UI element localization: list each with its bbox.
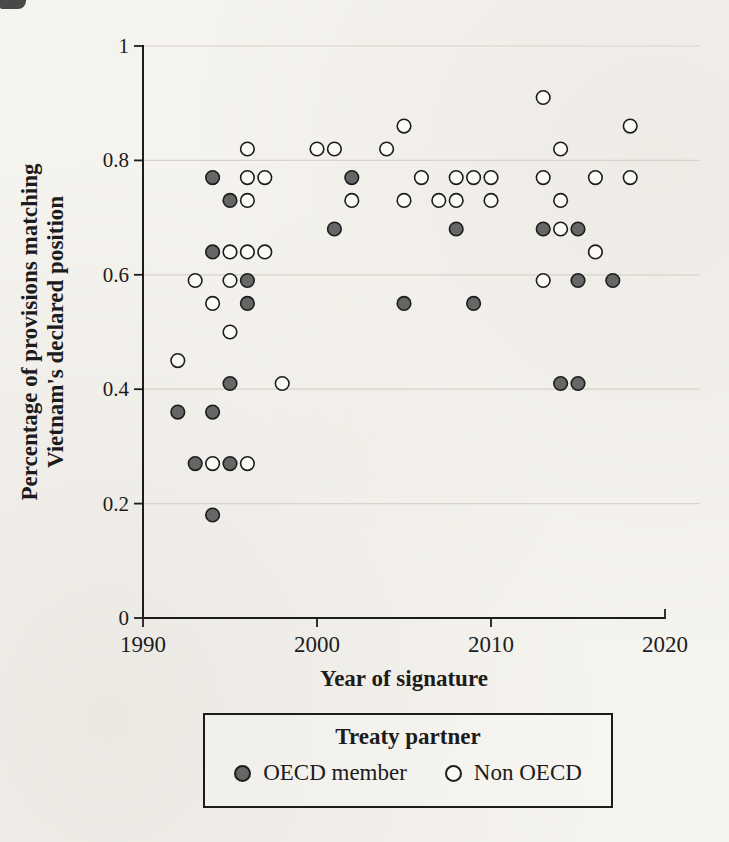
data-point-non-oecd [380, 142, 394, 156]
data-point-non-oecd [241, 457, 255, 471]
x-tick-label-2000: 2000 [294, 632, 340, 657]
legend-label-oecd: OECD member [263, 760, 407, 786]
y-tick-label-0.6: 0.6 [103, 263, 129, 287]
data-point-non-oecd [188, 274, 202, 288]
data-point-oecd [449, 222, 463, 236]
data-point-oecd [328, 222, 342, 236]
data-point-non-oecd [258, 245, 272, 259]
data-point-non-oecd [275, 377, 289, 391]
x-tick-label-1990: 1990 [120, 632, 166, 657]
data-point-oecd [571, 274, 585, 288]
x-tick-label-2020: 2020 [642, 632, 688, 657]
data-point-non-oecd [415, 171, 429, 185]
y-axis-title-line1: Percentage of provisions matching [17, 163, 42, 501]
data-point-non-oecd [206, 457, 220, 471]
data-point-oecd [223, 457, 237, 471]
data-point-non-oecd [623, 119, 637, 133]
figure-page: 00.20.40.60.811990200020102020 Year of s… [0, 0, 729, 842]
data-point-non-oecd [241, 194, 255, 208]
data-point-non-oecd [484, 171, 498, 185]
data-point-oecd [606, 274, 620, 288]
data-point-oecd [345, 171, 359, 185]
data-point-non-oecd [397, 194, 411, 208]
y-tick-label-0: 0 [119, 606, 130, 630]
y-tick-label-1: 1 [119, 34, 130, 58]
legend-row: OECD member Non OECD [205, 760, 611, 786]
data-point-oecd [171, 405, 185, 419]
legend-entry-non-oecd: Non OECD [445, 760, 582, 786]
axes [134, 46, 665, 627]
y-tick-label-0.8: 0.8 [103, 148, 129, 172]
scan-artifact [0, 0, 26, 9]
data-point-non-oecd [223, 274, 237, 288]
data-point-non-oecd [171, 354, 185, 368]
data-point-non-oecd [397, 119, 411, 133]
data-point-non-oecd [258, 171, 272, 185]
data-point-non-oecd [484, 194, 498, 208]
data-point-non-oecd [623, 171, 637, 185]
data-point-non-oecd [554, 142, 568, 156]
legend-title: Treaty partner [205, 724, 611, 750]
data-point-oecd [223, 194, 237, 208]
data-point-oecd [206, 245, 220, 259]
data-points [171, 91, 637, 522]
data-point-non-oecd [536, 274, 550, 288]
data-point-oecd [554, 377, 568, 391]
data-point-oecd [536, 222, 550, 236]
data-point-non-oecd [223, 325, 237, 339]
scatter-plot: 00.20.40.60.811990200020102020 Year of s… [0, 0, 729, 706]
data-point-non-oecd [449, 194, 463, 208]
y-tick-label-0.2: 0.2 [103, 492, 129, 516]
data-point-non-oecd [328, 142, 342, 156]
open-circle-icon [445, 765, 462, 782]
data-point-non-oecd [536, 91, 550, 105]
legend-entry-oecd: OECD member [234, 760, 407, 786]
data-point-non-oecd [241, 245, 255, 259]
x-tick-label-2010: 2010 [468, 632, 514, 657]
data-point-non-oecd [449, 171, 463, 185]
data-point-oecd [571, 222, 585, 236]
data-point-oecd [206, 171, 220, 185]
data-point-non-oecd [554, 194, 568, 208]
data-point-oecd [188, 457, 202, 471]
x-axis-title: Year of signature [320, 666, 488, 691]
data-point-non-oecd [241, 142, 255, 156]
data-point-non-oecd [589, 245, 603, 259]
data-point-non-oecd [589, 171, 603, 185]
data-point-non-oecd [206, 297, 220, 311]
data-point-oecd [467, 297, 481, 311]
data-point-oecd [241, 274, 255, 288]
data-point-non-oecd [536, 171, 550, 185]
data-point-non-oecd [554, 222, 568, 236]
data-point-oecd [223, 377, 237, 391]
data-point-oecd [206, 405, 220, 419]
filled-circle-icon [234, 765, 251, 782]
tick-labels: 00.20.40.60.811990200020102020 [103, 34, 688, 657]
data-point-non-oecd [467, 171, 481, 185]
data-point-non-oecd [310, 142, 324, 156]
data-point-oecd [397, 297, 411, 311]
data-point-non-oecd [241, 171, 255, 185]
data-point-oecd [571, 377, 585, 391]
data-point-non-oecd [345, 194, 359, 208]
y-axis-title-line2: Vietnam's declared position [43, 196, 68, 468]
data-point-oecd [241, 297, 255, 311]
legend: Treaty partner OECD member Non OECD [203, 713, 613, 808]
legend-label-non-oecd: Non OECD [474, 760, 582, 786]
y-tick-label-0.4: 0.4 [103, 377, 130, 401]
data-point-oecd [206, 508, 220, 522]
data-point-non-oecd [223, 245, 237, 259]
data-point-non-oecd [432, 194, 446, 208]
